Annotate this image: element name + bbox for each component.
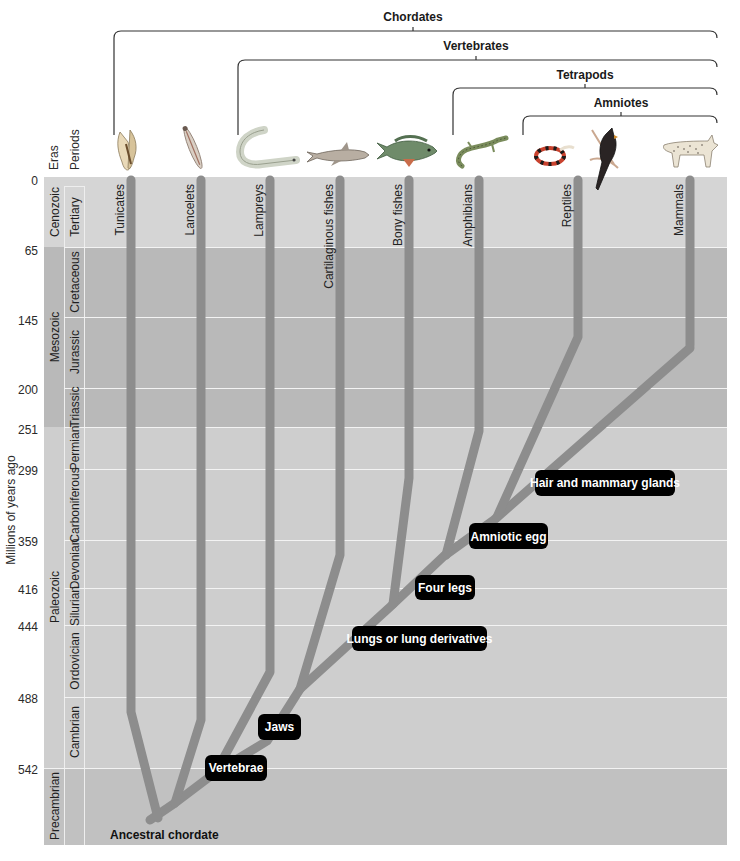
era-precambrian: Precambrian [48, 772, 62, 840]
svg-text:Four legs: Four legs [418, 581, 472, 595]
svg-text:Vertebrae: Vertebrae [209, 761, 264, 775]
snake-icon [536, 147, 574, 164]
period-cambrian: Cambrian [68, 706, 82, 758]
root-label-ancestral-chordate: Ancestral chordate [110, 828, 219, 842]
taxon-label-mammals: Mammals [672, 184, 686, 236]
phylogenetic-tree-diagram: Chordates Vertebrates Tetrapods Amniotes… [0, 0, 740, 861]
tick-444: 444 [18, 620, 38, 634]
era-mesozoic: Mesozoic [48, 312, 62, 363]
period-cretaceous: Cretaceous [68, 251, 82, 312]
period-tertiary: Tertiary [68, 197, 82, 236]
tunicate-icon [118, 130, 136, 170]
eras-column-header: Eras [47, 145, 61, 170]
trait-vertebrae: Vertebrae [205, 755, 267, 781]
tick-145: 145 [18, 314, 38, 328]
trait-hair-mammary: Hair and mammary glands [530, 470, 680, 496]
y-axis-ticks: 0 65 145 200 251 299 359 416 444 488 542 [18, 174, 38, 777]
time-bands [44, 177, 727, 845]
trait-amniotic-egg: Amniotic egg [469, 523, 548, 549]
svg-text:Hair and mammary glands: Hair and mammary glands [530, 476, 680, 490]
taxon-label-cartilaginous-fishes: Cartilaginous fishes [322, 184, 336, 289]
tick-416: 416 [18, 583, 38, 597]
period-devonian: Devonian [68, 539, 82, 590]
svg-text:Lungs or lung derivatives: Lungs or lung derivatives [346, 632, 492, 646]
period-permian: Permian [68, 426, 82, 471]
shark-icon [307, 142, 369, 166]
period-triassic: Triassic [68, 387, 82, 428]
bracket-tetrapods [453, 88, 717, 135]
trait-lungs: Lungs or lung derivatives [346, 626, 492, 651]
era-cenozoic: Cenozoic [48, 187, 62, 237]
period-silurian: Silurian [68, 586, 82, 626]
periods-column-header: Periods [68, 129, 82, 170]
tick-65: 65 [25, 244, 39, 258]
y-axis-title: Millions of years ago [4, 455, 18, 565]
clade-label-tetrapods: Tetrapods [556, 68, 613, 82]
tick-488: 488 [18, 692, 38, 706]
period-ordovician: Ordovician [68, 632, 82, 689]
tick-299: 299 [18, 464, 38, 478]
tick-542: 542 [18, 763, 38, 777]
period-carboniferous: Carboniferous [68, 467, 82, 542]
clade-label-vertebrates: Vertebrates [443, 39, 509, 53]
tick-0: 0 [31, 174, 38, 188]
taxon-label-lancelets: Lancelets [183, 184, 197, 235]
taxon-label-tunicates: Tunicates [113, 184, 127, 236]
trait-four-legs: Four legs [415, 575, 475, 600]
svg-text:Amniotic egg: Amniotic egg [470, 530, 546, 544]
bracket-chordates [114, 31, 717, 135]
salamander-icon [459, 138, 506, 166]
lamprey-icon [240, 130, 296, 165]
lancelet-icon [180, 125, 204, 170]
bobcat-icon [663, 135, 718, 167]
band-cenozoic [44, 177, 727, 247]
period-labels: Tertiary Cretaceous Jurassic Triassic Pe… [68, 197, 82, 758]
clade-label-chordates: Chordates [383, 10, 443, 24]
svg-text:Jaws: Jaws [265, 720, 295, 734]
tick-359: 359 [18, 535, 38, 549]
tick-251: 251 [18, 423, 38, 437]
taxon-label-bony-fishes: Bony fishes [391, 184, 405, 246]
bracket-amniotes [523, 116, 717, 135]
clade-brackets [114, 27, 717, 135]
taxon-label-reptiles: Reptiles [560, 184, 574, 227]
taxon-label-amphibians: Amphibians [461, 184, 475, 247]
trait-jaws: Jaws [258, 714, 301, 740]
tick-200: 200 [18, 383, 38, 397]
clade-label-amniotes: Amniotes [594, 96, 649, 110]
bony-fish-icon [377, 137, 437, 168]
era-paleozoic: Paleozoic [48, 571, 62, 623]
taxon-label-lampreys: Lampreys [252, 184, 266, 237]
period-jurassic: Jurassic [68, 330, 82, 374]
